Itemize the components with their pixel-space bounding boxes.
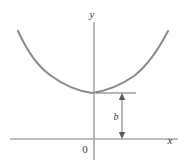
b-arrow-head-up [119, 93, 125, 100]
x-axis-label: x [167, 134, 173, 146]
figure-canvas: y x 0 b [0, 0, 184, 168]
parabola-curve [18, 31, 168, 93]
parabola-figure: y x 0 b [0, 0, 184, 168]
b-arrow-head-down [119, 132, 125, 139]
origin-label: 0 [82, 143, 88, 155]
y-axis-label: y [89, 8, 95, 20]
b-measure-label: b [114, 111, 119, 122]
b-measure-arrow [119, 93, 125, 139]
